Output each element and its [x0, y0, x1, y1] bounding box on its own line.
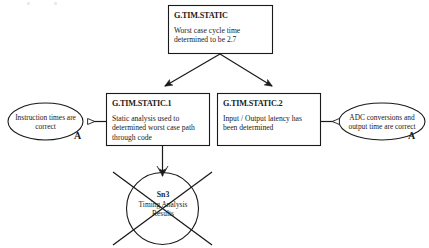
solution-description-line-1: Timing Analysis [139, 200, 188, 209]
diagram-canvas: G.TIM.STATIC Worst case cycle time deter… [0, 0, 429, 248]
goal-goal-2-id: G.TIM.STATIC.2 [223, 99, 315, 109]
solution-text-block: Sn3 Timing Analysis Results [127, 190, 199, 219]
solution-label: Sn3 Timing Analysis Results [127, 190, 199, 219]
assumption-right-marker: A [408, 131, 415, 141]
solution-id: Sn3 [127, 190, 199, 200]
goal-goal-1-id: G.TIM.STATIC.1 [112, 99, 204, 109]
assumption-left-label: Instruction times are correct [12, 104, 79, 140]
goal-goal-1-label: G.TIM.STATIC.1 Static analysis used to d… [106, 94, 210, 146]
goal-top-goal-description: Worst case cycle time determined to be 2… [174, 26, 267, 45]
connector-whisker-right [164, 166, 168, 173]
assumption-left-marker: A [74, 131, 81, 141]
solution-description-line-2: Results [152, 209, 174, 218]
connector-top-goal-to-goal-1 [165, 54, 220, 86]
goal-goal-1-description: Static analysis used to determined worst… [112, 114, 204, 142]
goal-top-goal-id: G.TIM.STATIC [174, 11, 267, 21]
assumption-left-text: Instruction times are correct [12, 104, 79, 140]
connector-whisker-left [157, 166, 161, 173]
goal-top-goal-label: G.TIM.STATIC Worst case cycle time deter… [168, 6, 273, 54]
goal-goal-2-label: G.TIM.STATIC.2 Input / Output latency ha… [217, 94, 321, 146]
connector-top-goal-to-goal-2 [220, 54, 272, 86]
goal-goal-2-description: Input / Output latency has been determin… [223, 114, 315, 133]
